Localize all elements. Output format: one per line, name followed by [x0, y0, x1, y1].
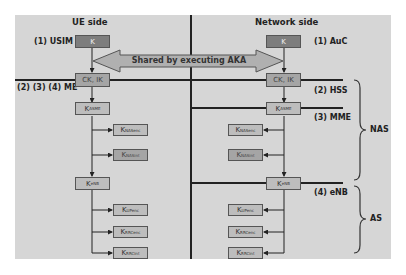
- net-key-kenb: KeNB: [266, 177, 301, 190]
- net-key-knasenc: KNASenc: [228, 124, 263, 136]
- net-key-kasme: KASME: [266, 102, 301, 115]
- me-label: (2) (3) (4) ME: [17, 83, 77, 92]
- net-key-knasint: KNASint: [228, 149, 263, 161]
- ue-key-krrcint: KRRCint: [113, 247, 148, 259]
- ue-key-knasenc: KNASenc: [113, 124, 148, 136]
- net-key-krrcint: KRRCint: [228, 247, 263, 259]
- ue-key-kenb: KeNB: [75, 177, 110, 190]
- auc-label: (1) AuC: [314, 37, 347, 46]
- net-key-ckik: CK, IK: [266, 73, 301, 87]
- enb-label: (4) eNB: [314, 188, 348, 197]
- net-key-k: K: [266, 35, 301, 48]
- nas-label: NAS: [370, 125, 389, 134]
- ue-key-krrcenc: KRRCenc: [113, 226, 148, 238]
- mme-label: (3) MME: [314, 113, 351, 122]
- ue-key-ckik: CK, IK: [75, 73, 110, 87]
- ue-key-k: K: [75, 35, 110, 48]
- usim-label: (1) USIM: [34, 37, 73, 46]
- net-key-krrcenc: KRRCenc: [228, 226, 263, 238]
- ue-key-kupenc: KUPenc: [113, 204, 148, 216]
- as-label: AS: [370, 214, 382, 223]
- ue-key-knasint: KNASint: [113, 149, 148, 161]
- hss-label: (2) HSS: [314, 86, 348, 95]
- ue-key-kasme: KASME: [75, 102, 110, 115]
- shared-aka-label: Shared by executing AKA: [124, 55, 254, 67]
- net-key-kupenc: KUPenc: [228, 204, 263, 216]
